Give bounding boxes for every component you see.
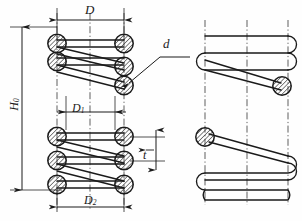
right-outline-view xyxy=(196,20,297,205)
wire-cross-section-upper-right xyxy=(273,77,291,95)
dimension-label-mean-diameter: D2 xyxy=(84,193,96,208)
dimension-label-wire-diameter: d xyxy=(163,36,170,52)
leader-line-d xyxy=(129,57,190,83)
dimension-label-inner-diameter: D1 xyxy=(72,101,84,116)
spring-technical-drawing xyxy=(0,0,302,221)
drawing-canvas: D H0 D1 D2 d t xyxy=(0,0,302,221)
spring-coil-body-upper xyxy=(57,40,124,89)
dimension-label-free-height: H0 xyxy=(7,98,22,110)
spring-coil-body-lower xyxy=(57,133,124,188)
wire-cross-sections-left-column xyxy=(48,34,66,193)
dimension-t-right xyxy=(130,130,165,170)
dimension-D1-middle xyxy=(57,96,126,130)
wire-cross-section-lower-left xyxy=(196,128,214,146)
left-sectional-view xyxy=(48,13,133,209)
centerlines-right xyxy=(205,20,288,205)
dimension-label-pitch: t xyxy=(143,148,146,163)
dimension-label-outer-diameter: D xyxy=(85,2,94,18)
